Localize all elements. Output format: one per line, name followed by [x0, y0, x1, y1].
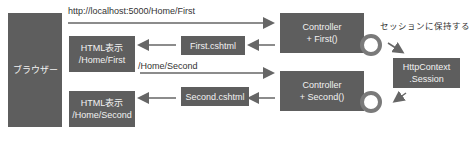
request-url-2: /Home/Second: [138, 61, 198, 71]
session-subtitle: .Session: [409, 73, 444, 85]
html-first-path: /Home/First: [79, 54, 126, 66]
store-session-arrow: [388, 43, 402, 52]
session-note: セッションに保持する: [380, 19, 469, 31]
ring-icon-second: [360, 91, 382, 113]
first-cshtml-box: First.cshtml: [181, 36, 245, 55]
html-second-title: HTML表示: [81, 97, 124, 109]
browser-label: ブラウザー: [13, 64, 58, 76]
controller-first-box: Controller + First(): [280, 13, 364, 53]
second-cshtml-box: Second.cshtml: [181, 87, 249, 106]
ring-icon-first: [360, 34, 382, 56]
controller-first-title: Controller: [302, 21, 341, 33]
first-cshtml-label: First.cshtml: [190, 40, 236, 52]
html-display-first: HTML表示 /Home/First: [69, 36, 135, 72]
controller-second-box: Controller + Second(): [280, 71, 364, 111]
controller-first-method: + First(): [306, 33, 337, 45]
html-display-second: HTML表示 /Home/Second: [69, 91, 135, 127]
html-second-path: /Home/Second: [72, 109, 132, 121]
second-cshtml-label: Second.cshtml: [185, 91, 244, 103]
request-url-1: http://localhost:5000/Home/First: [68, 6, 195, 16]
controller-second-method: + Second(): [300, 91, 344, 103]
browser-box: ブラウザー: [8, 13, 62, 127]
httpcontext-session-box: HttpContext .Session: [393, 58, 460, 88]
session-title: HttpContext: [403, 61, 451, 73]
html-first-title: HTML表示: [81, 42, 124, 54]
controller-second-title: Controller: [302, 79, 341, 91]
read-session-arrow: [395, 93, 406, 101]
